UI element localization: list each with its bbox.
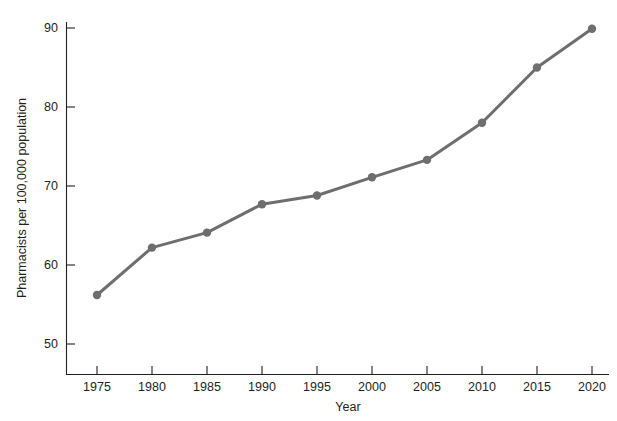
y-tick-label: 50 — [44, 337, 58, 351]
x-tick-label: 2015 — [523, 380, 551, 394]
y-tick-label: 70 — [44, 179, 58, 193]
series-line — [97, 29, 592, 295]
chart-plot-area: 90 80 70 60 50 1975 1980 1985 1990 1995 … — [0, 0, 617, 421]
y-tick-label: 90 — [44, 21, 58, 35]
x-tick-label: 1985 — [193, 380, 221, 394]
x-tick-label: 2005 — [413, 380, 441, 394]
data-point — [368, 173, 376, 181]
x-tick-label: 1995 — [303, 380, 331, 394]
x-tick-label: 2020 — [578, 380, 606, 394]
x-tick-label: 2000 — [358, 380, 386, 394]
x-tick-marks — [97, 366, 592, 375]
data-point — [533, 63, 541, 71]
data-point — [588, 25, 596, 33]
data-point — [478, 119, 486, 127]
data-point — [423, 156, 431, 164]
data-point — [258, 200, 266, 208]
x-tick-label: 1980 — [138, 380, 166, 394]
x-axis-title: Year — [335, 400, 360, 414]
data-point — [313, 191, 321, 199]
x-tick-label: 2010 — [468, 380, 496, 394]
y-tick-label: 60 — [44, 258, 58, 272]
x-tick-label: 1975 — [83, 380, 111, 394]
line-chart-figure: 90 80 70 60 50 1975 1980 1985 1990 1995 … — [0, 0, 617, 421]
y-axis-title: Pharmacists per 100,000 population — [15, 98, 29, 298]
y-tick-label: 80 — [44, 100, 58, 114]
y-tick-marks — [67, 28, 76, 344]
series-markers — [93, 25, 596, 300]
x-tick-label: 1990 — [248, 380, 276, 394]
data-point — [93, 291, 101, 299]
data-point — [203, 228, 211, 236]
data-point — [148, 243, 156, 251]
